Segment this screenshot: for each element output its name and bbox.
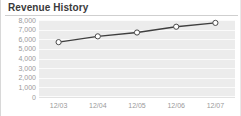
x-axis-tick-label: 12/04 [78,102,118,110]
data-point-marker[interactable] [213,20,218,25]
data-point-marker[interactable] [174,24,179,29]
x-axis-line [39,97,235,98]
x-axis-tick-label: 12/03 [39,102,79,110]
y-axis-tick-label: 2,000 [1,74,36,81]
x-axis-tick-label: 12/06 [156,102,196,110]
y-axis-tick-label: 6,000 [1,36,36,43]
data-point-marker[interactable] [95,34,100,39]
y-axis-tick-labels: 8,0007,0006,0005,0004,0003,0002,0001,000… [1,18,36,99]
line-series-revenue [39,20,235,97]
data-point-marker[interactable] [134,30,139,35]
y-axis-tick-label: 1,000 [1,84,36,91]
data-point-marker[interactable] [56,40,61,45]
x-axis-tick-labels: 12/0312/0412/0512/0612/07 [39,102,235,114]
y-axis-tick-label: 4,000 [1,55,36,62]
y-axis-tick-label: 3,000 [1,65,36,72]
revenue-history-chart-widget: Revenue History 8,0007,0006,0005,0004,00… [0,0,241,116]
y-axis-tick-label: 5,000 [1,45,36,52]
x-axis-tick-label: 12/07 [195,102,235,110]
y-axis-tick-label: 7,000 [1,26,36,33]
y-axis-tick-label: 0 [1,94,36,101]
page-title: Revenue History [8,2,88,13]
x-axis-tick-label: 12/05 [117,102,157,110]
y-axis-tick-label: 8,000 [1,17,36,24]
chart-canvas: 8,0007,0006,0005,0004,0003,0002,0001,000… [1,18,241,116]
header-divider [5,15,238,16]
widget-header: Revenue History [1,0,241,18]
